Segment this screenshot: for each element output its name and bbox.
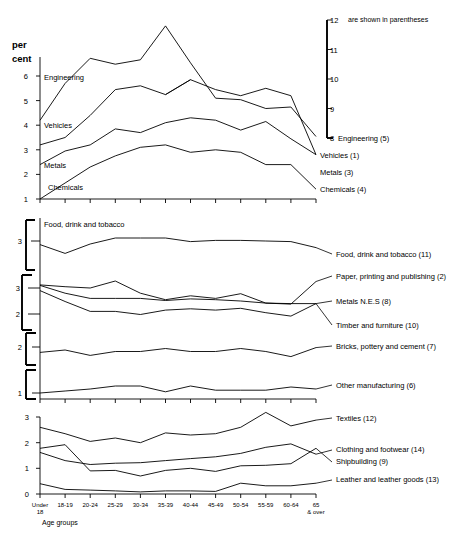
series-label-textiles: Textiles (12) (336, 414, 377, 423)
leader-paper-printing-publishing (316, 276, 332, 282)
leader-food-drink-tobacco (316, 248, 332, 254)
y-tick-label-4: 4 (24, 121, 28, 130)
series-label-paper-printing-publishing: Paper, printing and publishing (2) (336, 272, 447, 281)
x-tick-label-9: 55-59 (258, 502, 274, 508)
y-axis-title-line2: cent (12, 53, 32, 64)
right-tick-label-9: 9 (330, 105, 334, 114)
x-tick-label-10: 60-64 (283, 502, 299, 508)
series-line-bricks-pottery-cement (40, 348, 316, 357)
x-tick-label-8: 50-54 (233, 502, 249, 508)
series-label-food-drink-tobacco: Food, drink and tobacco (11) (336, 250, 432, 259)
mid-x-axis-ticks (40, 399, 316, 403)
band2-bracket (22, 275, 32, 330)
bot-y-tick-label-2: 2 (25, 439, 29, 448)
y-tick-label-2: 2 (24, 170, 28, 179)
series-line-food-drink-tobacco (40, 238, 316, 253)
series-line-metals-nes (40, 285, 316, 303)
series-label-other-manufacturing: Other manufacturing (6) (336, 381, 416, 390)
leader-other-manufacturing (316, 385, 332, 389)
x-tick-label-3: 25-29 (108, 502, 124, 508)
series-label-metals-nes: Metals N.E.S (8) (336, 297, 392, 306)
panel-top: per cent 6 5 4 3 2 1 12 11 10 9 8 are sh… (0, 0, 458, 212)
inline-label-metals: Metals (44, 161, 66, 170)
vehicles-peak-segment (166, 80, 191, 95)
x-tick-label-7: 45-49 (208, 502, 224, 508)
panel-bot: 3 2 1 0 Textiles (12) Clothing and footw… (0, 404, 458, 533)
series-label-timber-furniture: Timber and furniture (10) (336, 321, 419, 330)
leader-metals-nes (316, 301, 332, 304)
right-tick-label-11: 11 (330, 46, 338, 55)
x-tick-label-0a: Under (32, 502, 48, 508)
x-tick-label-11a: 65 (313, 502, 320, 508)
panel-mid-svg: 3 3 2 2 1 Food, drink and tobacco Food, … (0, 213, 458, 403)
series-label-bricks-pottery-cement: Bricks, pottery and cement (7) (336, 342, 437, 351)
right-tick-label-8: 8 (330, 134, 334, 143)
series-line-vehicles (40, 80, 316, 155)
panel-bot-svg: 3 2 1 0 Textiles (12) Clothing and footw… (0, 404, 458, 533)
x-tick-label-6: 40-44 (183, 502, 199, 508)
band1-bracket (26, 220, 35, 270)
bot-x-axis-ticks (40, 494, 316, 498)
series-line-metals (40, 118, 316, 165)
leader-timber-furniture (316, 304, 332, 325)
series-label-engineering: Engineering (5) (338, 134, 390, 143)
band1-tick-label-3: 3 (18, 237, 22, 246)
band3-bracket (26, 333, 36, 365)
series-line-paper-printing-publishing (40, 281, 316, 304)
inline-label-chemicals: Chemicals (48, 183, 83, 192)
inline-label-vehicles: Vehicles (44, 121, 72, 130)
inline-label-engineering: Engineering (44, 73, 84, 82)
series-line-other-manufacturing (40, 386, 316, 393)
band2-tick-label-2: 2 (16, 310, 20, 319)
band2-tick-label-3: 3 (16, 284, 20, 293)
y-tick-label-6: 6 (24, 72, 28, 81)
x-tick-label-11b: & over (307, 509, 324, 515)
series-label-vehicles: Vehicles (1) (320, 151, 360, 160)
x-axis-title: Age groups (42, 519, 78, 527)
series-label-chemicals: Chemicals (4) (320, 185, 367, 194)
leader-leather-goods (316, 480, 332, 483)
series-label-metals: Metals (3) (320, 168, 354, 177)
x-tick-label-4: 30-34 (133, 502, 149, 508)
band4-tick-label-1: 1 (18, 389, 22, 398)
right-tick-label-12: 12 (330, 16, 338, 25)
right-tick-label-10: 10 (330, 75, 338, 84)
series-line-textiles (40, 412, 316, 442)
y-tick-label-3: 3 (24, 146, 28, 155)
y-tick-label-1: 1 (24, 195, 28, 204)
x-tick-label-5: 35-39 (158, 502, 174, 508)
leader-textiles (316, 418, 332, 420)
x-tick-label-2: 20-24 (83, 502, 99, 508)
leader-bricks-pottery-cement (316, 346, 332, 348)
parentheses-note: are shown in parentheses (348, 16, 429, 24)
band4-bracket (26, 370, 36, 399)
panel-mid: 3 3 2 2 1 Food, drink and tobacco Food, … (0, 213, 458, 403)
x-axis-ticks (40, 199, 316, 203)
series-label-leather-goods: Leather and leather goods (13) (336, 475, 439, 484)
band3-tick-label-2: 2 (18, 343, 22, 352)
x-tick-label-0b: 18 (37, 509, 44, 515)
y-tick-label-5: 5 (24, 97, 28, 106)
y-axis-title-line1: per (12, 39, 27, 50)
bot-y-tick-label-1: 1 (25, 464, 29, 473)
series-line-shipbuilding (40, 445, 316, 476)
bot-y-tick-label-0: 0 (25, 490, 29, 499)
bot-y-tick-label-3: 3 (25, 413, 29, 422)
inline-label-food-drink-tobacco: Food, drink and tobacco (44, 220, 124, 229)
panel-top-svg: per cent 6 5 4 3 2 1 12 11 10 9 8 are sh… (0, 0, 458, 212)
series-line-leather-goods (40, 483, 316, 492)
x-tick-label-1: 18-19 (57, 502, 73, 508)
series-label-shipbuilding: Shipbuilding (9) (336, 457, 389, 466)
series-label-clothing-footwear: Clothing and footwear (14) (336, 445, 425, 454)
